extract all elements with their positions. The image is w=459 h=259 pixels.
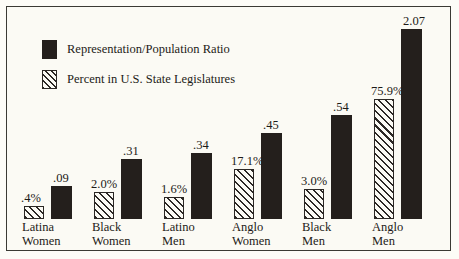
category-label-line-1: Anglo bbox=[232, 220, 271, 235]
bar-value-ratio-latina-women: .09 bbox=[53, 171, 69, 187]
category-label-black-women: Black Women bbox=[92, 220, 131, 250]
bar-percent-anglo-women: 17.1% bbox=[234, 169, 254, 219]
category-label-latina-women: Latina Women bbox=[22, 220, 61, 250]
category-label-line-1: Latino bbox=[162, 220, 195, 235]
bar-value-percent-latino-men: 1.6% bbox=[161, 182, 187, 198]
bar-value-percent-anglo-men: 75.9% bbox=[371, 84, 403, 100]
chart-screenshot: Representation/Population Ratio Percent … bbox=[0, 0, 459, 259]
category-label-line-2: Women bbox=[92, 234, 131, 249]
plot-area: .4% .09 Latina Women 2.0% .31 bbox=[6, 6, 451, 251]
category-label-black-men: Black Men bbox=[302, 220, 331, 250]
category-label-anglo-men: Anglo Men bbox=[372, 220, 403, 250]
bar-percent-anglo-men: 75.9% bbox=[374, 99, 394, 219]
category-label-line-2: Men bbox=[162, 234, 195, 249]
category-label-line-2: Women bbox=[232, 234, 271, 249]
bar-percent-latina-women: .4% bbox=[24, 206, 44, 219]
bar-value-percent-black-men: 3.0% bbox=[301, 174, 327, 190]
bar-ratio-anglo-men: 2.07 bbox=[401, 29, 422, 219]
bar-percent-black-women: 2.0% bbox=[94, 192, 114, 219]
bar-value-ratio-anglo-women: .45 bbox=[263, 118, 279, 134]
bar-value-ratio-black-women: .31 bbox=[123, 144, 139, 160]
bar-value-ratio-latino-men: .34 bbox=[193, 138, 209, 154]
bar-ratio-black-men: .54 bbox=[331, 115, 352, 219]
category-label-line-2: Men bbox=[372, 234, 403, 249]
category-label-line-1: Black bbox=[92, 220, 131, 235]
bar-ratio-black-women: .31 bbox=[121, 159, 142, 219]
bar-value-ratio-black-men: .54 bbox=[333, 100, 349, 116]
bar-value-percent-latina-women: .4% bbox=[21, 191, 41, 207]
bar-ratio-latino-men: .34 bbox=[191, 153, 212, 219]
category-label-line-1: Black bbox=[302, 220, 331, 235]
bar-percent-black-men: 3.0% bbox=[304, 189, 324, 219]
category-label-line-2: Women bbox=[22, 234, 61, 249]
category-label-line-1: Anglo bbox=[372, 220, 403, 235]
bar-percent-latino-men: 1.6% bbox=[164, 197, 184, 219]
category-label-anglo-women: Anglo Women bbox=[232, 220, 271, 250]
bar-ratio-latina-women: .09 bbox=[51, 186, 72, 219]
bar-value-percent-anglo-women: 17.1% bbox=[231, 154, 263, 170]
category-label-line-1: Latina bbox=[22, 220, 61, 235]
bar-value-ratio-anglo-men: 2.07 bbox=[403, 14, 425, 30]
category-label-latino-men: Latino Men bbox=[162, 220, 195, 250]
bar-value-percent-black-women: 2.0% bbox=[91, 177, 117, 193]
category-label-line-2: Men bbox=[302, 234, 331, 249]
bar-ratio-anglo-women: .45 bbox=[261, 133, 282, 219]
